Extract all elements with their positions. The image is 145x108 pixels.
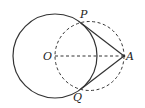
tangent-qa <box>81 56 124 89</box>
label-q: Q <box>73 91 82 104</box>
geometry-diagram: P Q O A <box>0 0 145 108</box>
tangent-pa <box>81 23 124 56</box>
label-p: P <box>79 8 88 21</box>
label-o: O <box>43 50 52 63</box>
point-a <box>123 55 126 58</box>
label-a: A <box>125 50 134 63</box>
